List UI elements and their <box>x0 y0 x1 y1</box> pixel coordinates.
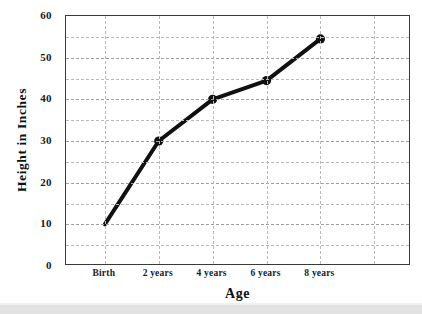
gridline-horizontal-major <box>66 99 409 100</box>
x-axis-tick-label: Birth <box>92 268 115 278</box>
gridline-horizontal-minor <box>66 37 409 38</box>
gridline-horizontal-minor <box>66 120 409 121</box>
gridline-horizontal-major <box>66 224 409 225</box>
plot-area <box>65 15 410 265</box>
y-axis-tick-label: 50 <box>40 51 52 63</box>
y-axis-tick-label: 60 <box>40 9 52 21</box>
gridline-horizontal-minor <box>66 204 409 205</box>
gridline-vertical <box>320 16 321 264</box>
x-axis-tick-label: 8 years <box>304 268 334 278</box>
gridline-horizontal-minor <box>66 79 409 80</box>
line-chart: 0102030405060 Birth2 years4 years6 years… <box>0 0 422 314</box>
bottom-band <box>0 305 422 314</box>
y-axis-title: Height in Inches <box>14 40 30 240</box>
gridline-horizontal-major <box>66 58 409 59</box>
gridline-horizontal-minor <box>66 162 409 163</box>
y-axis-tick-label: 10 <box>40 217 52 229</box>
gridline-vertical <box>267 16 268 264</box>
gridline-vertical <box>159 16 160 264</box>
gridline-vertical <box>374 16 375 264</box>
x-axis-tick-label: 6 years <box>250 268 280 278</box>
x-axis-tick-labels: Birth2 years4 years6 years8 years <box>65 266 410 286</box>
x-axis-tick-label: 2 years <box>143 268 173 278</box>
gridline-horizontal-minor <box>66 245 409 246</box>
y-axis-tick-labels: 0102030405060 <box>0 15 60 265</box>
y-axis-tick-label: 30 <box>40 134 52 146</box>
x-axis-tick-label: 4 years <box>197 268 227 278</box>
gridline-horizontal-major <box>66 183 409 184</box>
y-axis-tick-label: 40 <box>40 92 52 104</box>
gridline-horizontal-major <box>66 141 409 142</box>
gridline-vertical <box>105 16 106 264</box>
x-axis-title: Age <box>65 286 410 302</box>
y-axis-tick-label: 20 <box>40 176 52 188</box>
gridline-vertical <box>213 16 214 264</box>
y-axis-tick-label: 0 <box>46 259 52 271</box>
